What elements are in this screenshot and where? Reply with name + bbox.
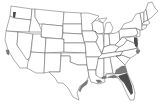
state-montana: [35, 9, 64, 26]
us-distribution-map: [0, 0, 163, 110]
state-connecticut: [142, 25, 147, 30]
state-new-york: [121, 13, 142, 30]
map-canvas: [0, 0, 163, 110]
shaded-florida-peninsula: [118, 73, 133, 95]
state-maine: [146, 2, 158, 20]
state-wyoming: [41, 24, 63, 39]
state-south-dakota: [63, 24, 82, 34]
state-nebraska: [62, 33, 85, 43]
state-north-dakota: [63, 12, 82, 24]
state-kansas: [64, 43, 86, 53]
state-new-mexico: [44, 53, 61, 73]
state-colorado: [45, 38, 64, 53]
shaded-california-coast: [6, 50, 9, 55]
